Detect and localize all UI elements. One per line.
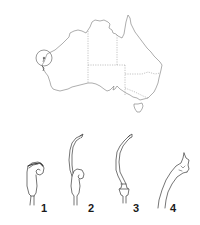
figure: 1 2 3 4: [0, 0, 200, 225]
specimen-label-1: 1: [41, 203, 47, 214]
specimen-drawings: [0, 0, 200, 225]
specimen-4-drawing: [158, 153, 189, 208]
specimen-label-3: 3: [133, 203, 139, 214]
specimen-label-2: 2: [88, 203, 94, 214]
specimen-label-4: 4: [170, 203, 176, 214]
specimen-3-drawing: [116, 134, 132, 203]
specimen-1-drawing: [27, 162, 44, 205]
specimen-2-drawing: [69, 134, 84, 205]
